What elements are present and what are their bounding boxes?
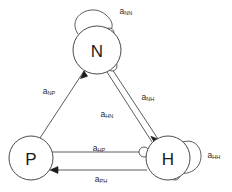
edge-label-a-NN: aNN xyxy=(120,6,133,16)
edge-a-NP-line xyxy=(40,71,84,138)
edge-label-a-HN: aHN xyxy=(101,109,114,119)
node-N[interactable]: N xyxy=(73,26,121,74)
node-P[interactable]: P xyxy=(9,136,53,180)
edge-label-a-PH: aPH xyxy=(95,174,108,184)
edge-label-a-HN-sub: HN xyxy=(105,113,113,119)
edge-label-a-NN-sub: NN xyxy=(124,10,132,16)
network-diagram: N P H aNN aNP aNH aHN aHP aPH xyxy=(0,0,232,192)
edge-label-a-HH-sub: HH xyxy=(212,154,220,160)
edge-a-NP xyxy=(40,71,88,138)
edge-label-a-HP: aHP xyxy=(93,143,106,153)
node-H-label: H xyxy=(162,150,174,169)
diagram-canvas: N P H aNN aNP aNH aHN aHP aPH xyxy=(0,0,232,192)
edge-a-NH-line xyxy=(112,69,158,139)
edge-a-HN-line xyxy=(107,72,152,142)
edge-label-a-NH: aNH xyxy=(142,92,155,102)
edge-a-PH xyxy=(50,167,147,174)
node-P-label: P xyxy=(25,150,36,169)
edge-label-a-HP-sub: HP xyxy=(97,147,105,153)
edge-label-a-HH: aHH xyxy=(208,150,221,160)
edge-label-a-NH-sub: NH xyxy=(146,96,154,102)
node-N-label: N xyxy=(91,42,103,61)
edge-label-a-NP-sub: NP xyxy=(47,90,55,96)
edge-label-a-PH-sub: PH xyxy=(99,178,107,184)
edge-label-a-NP: aNP xyxy=(43,86,56,96)
edge-a-NH xyxy=(112,69,158,143)
node-H[interactable]: H xyxy=(146,136,190,180)
